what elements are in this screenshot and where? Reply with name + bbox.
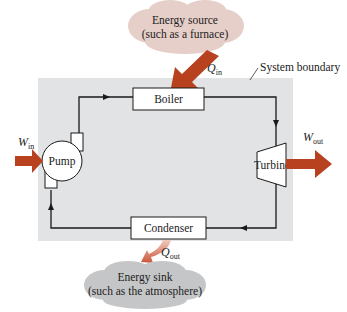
heat-engine-diagram: System boundary Energy source (such as a… [0,0,347,312]
boiler-label: Boiler [154,93,183,105]
energy-source-cloud [128,0,244,54]
w-in-label: Win [18,135,34,151]
energy-source-line1: Energy source [152,14,218,27]
pump-label: Pump [49,155,76,168]
energy-sink-line2: (such as the atmosphere) [88,285,202,298]
system-boundary-label: System boundary [260,61,340,74]
turbine-label: Turbine [254,159,290,171]
energy-sink-line1: Energy sink [117,271,172,284]
q-out-label: Qout [161,245,181,261]
w-out-label: Wout [303,130,324,146]
energy-source-line2: (such as a furnace) [142,28,229,41]
condenser-label: Condenser [144,222,193,234]
q-in-label: Qin [207,61,222,77]
